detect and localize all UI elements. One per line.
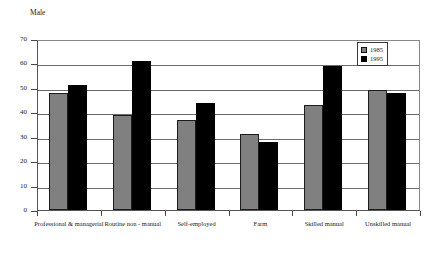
- gridline-40: [38, 114, 419, 115]
- bar: [323, 66, 342, 210]
- bar: [240, 134, 259, 210]
- x-tick: [420, 211, 421, 216]
- y-tick-label-70: 70: [20, 35, 27, 44]
- x-tick: [165, 211, 166, 216]
- y-tick-label-60: 60: [20, 59, 27, 68]
- y-tick-label-30: 30: [20, 133, 27, 142]
- y-tick-70: [31, 40, 37, 41]
- y-tick-40: [31, 113, 37, 114]
- gridline-50: [38, 90, 419, 91]
- bar: [132, 61, 151, 210]
- legend-label: 1995: [370, 55, 383, 63]
- bar-chart: Male 010203040506070 Professional & mana…: [0, 0, 438, 254]
- gridline-20: [38, 163, 419, 164]
- bar: [49, 93, 68, 210]
- x-tick: [229, 211, 230, 216]
- x-tick: [356, 211, 357, 216]
- bar: [113, 115, 132, 210]
- y-tick-label-10: 10: [20, 182, 27, 191]
- bar: [68, 85, 87, 210]
- y-tick-50: [31, 89, 37, 90]
- chart-title: Male: [30, 8, 45, 17]
- y-tick-10: [31, 187, 37, 188]
- y-tick-label-40: 40: [20, 108, 27, 117]
- y-tick-label-0: 0: [24, 206, 28, 215]
- gridline-30: [38, 139, 419, 140]
- x-tick: [292, 211, 293, 216]
- bar: [196, 103, 215, 210]
- bar-group: [240, 41, 278, 210]
- bar: [259, 142, 278, 210]
- series-1985-swatch: [361, 47, 367, 53]
- legend-item[interactable]: 1995: [361, 54, 383, 63]
- y-tick-30: [31, 138, 37, 139]
- bar: [177, 120, 196, 210]
- bar: [304, 105, 323, 210]
- bar-group: [304, 41, 342, 210]
- x-tick: [37, 211, 38, 216]
- bar: [387, 93, 406, 210]
- series-1995-swatch: [361, 56, 367, 62]
- bar-group: [368, 41, 406, 210]
- bar-group: [49, 41, 87, 210]
- bar-group: [113, 41, 151, 210]
- y-tick-60: [31, 64, 37, 65]
- legend-label: 1985: [370, 46, 383, 54]
- x-tick: [101, 211, 102, 216]
- bar-group: [177, 41, 215, 210]
- legend-item[interactable]: 1985: [361, 45, 383, 54]
- bar: [368, 90, 387, 210]
- x-axis-label: Unskilled manual: [350, 220, 426, 229]
- chart-legend: 19851995: [357, 42, 388, 66]
- gridline-10: [38, 188, 419, 189]
- y-tick-label-20: 20: [20, 157, 27, 166]
- y-tick-20: [31, 162, 37, 163]
- y-tick-label-50: 50: [20, 84, 27, 93]
